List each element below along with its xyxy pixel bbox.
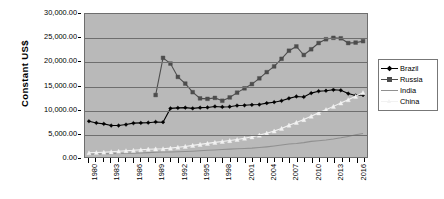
data-point-marker <box>161 120 165 124</box>
legend-item-china[interactable]: China <box>381 96 435 107</box>
x-axis-tick-label: 2013 <box>337 164 344 180</box>
series-china <box>87 91 365 155</box>
series-russia <box>154 36 365 103</box>
data-point-marker <box>309 114 313 118</box>
x-axis-tick-label: 2007 <box>292 164 299 180</box>
x-axis-tick-mark <box>289 158 290 163</box>
x-axis-tick-mark <box>319 158 320 162</box>
series-line <box>156 38 363 101</box>
x-axis-tick-mark <box>103 158 104 162</box>
x-axis-tick-mark <box>207 158 208 162</box>
data-point-marker <box>94 121 98 125</box>
series-line <box>89 90 363 126</box>
x-axis-tick-mark <box>110 158 111 163</box>
data-point-marker <box>346 92 350 96</box>
x-axis-tick-mark <box>95 158 96 162</box>
data-point-marker <box>220 99 224 103</box>
x-axis-tick-labels: 1980198319861989199219951998200120042007… <box>84 164 368 198</box>
data-point-marker <box>183 82 187 86</box>
data-point-marker <box>117 124 121 128</box>
data-point-marker <box>309 91 313 95</box>
data-point-marker <box>346 41 350 45</box>
y-axis-tick-mark <box>78 110 81 111</box>
data-point-marker <box>309 47 313 51</box>
data-point-marker <box>161 56 165 60</box>
x-axis-tick-mark <box>364 158 365 162</box>
data-point-marker <box>257 76 261 80</box>
legend-label: Russia <box>400 76 423 83</box>
x-axis-tick-mark <box>237 158 238 162</box>
data-point-marker <box>324 89 328 93</box>
legend-label: China <box>400 98 419 105</box>
data-point-marker <box>176 75 180 79</box>
y-axis-tick-mark <box>78 86 81 87</box>
data-point-marker <box>139 121 143 125</box>
gridline <box>85 62 367 63</box>
x-axis-tick-mark <box>312 158 313 163</box>
x-axis-tick-mark <box>267 158 268 163</box>
data-point-marker <box>339 88 343 92</box>
y-axis-tick-label: 25,000.00 <box>44 33 77 40</box>
x-axis-tick-label: 1983 <box>113 164 120 180</box>
x-axis-tick-label: 1989 <box>158 164 165 180</box>
series-line <box>89 93 363 153</box>
legend-item-brazil[interactable]: Brazil <box>381 63 435 74</box>
x-axis-tick-mark <box>349 158 350 162</box>
data-point-marker <box>272 65 276 69</box>
data-point-marker <box>250 82 254 86</box>
legend-swatch-russia <box>381 75 398 84</box>
x-axis-tick-label: 1995 <box>203 164 210 180</box>
x-axis-tick-label: 2001 <box>248 164 255 180</box>
x-axis-tick-mark <box>170 158 171 162</box>
y-axis-tick-mark <box>78 37 81 38</box>
x-axis-tick-mark <box>282 158 283 162</box>
x-axis-tick-mark <box>245 158 246 163</box>
x-axis-tick-label: 2010 <box>315 164 322 180</box>
data-point-marker <box>302 95 306 99</box>
data-point-marker <box>235 104 239 108</box>
x-axis-tick-mark <box>200 158 201 163</box>
legend-item-russia[interactable]: Russia <box>381 74 435 85</box>
data-point-marker <box>272 100 276 104</box>
legend-item-india[interactable]: India <box>381 85 435 96</box>
x-axis-tick-mark <box>118 158 119 162</box>
data-point-marker <box>176 106 180 110</box>
x-axis-tick-mark <box>260 158 261 162</box>
x-axis-tick-mark <box>304 158 305 162</box>
data-point-marker <box>294 95 298 99</box>
data-point-marker <box>294 45 298 49</box>
data-point-marker <box>243 103 247 107</box>
y-axis-tick-label: 5,000.00 <box>48 130 77 137</box>
data-point-marker <box>198 96 202 100</box>
data-point-marker <box>354 41 358 45</box>
legend-swatch-brazil <box>381 64 398 73</box>
gridline <box>85 38 367 39</box>
data-point-marker <box>213 96 217 100</box>
x-axis-tick-mark <box>357 158 358 163</box>
y-axis-tick-mark <box>78 61 81 62</box>
y-axis-tick-mark <box>78 134 81 135</box>
legend-swatch-china <box>381 97 398 106</box>
data-point-marker <box>257 103 261 107</box>
gridline <box>85 111 367 112</box>
x-axis-tick-label: 2016 <box>360 164 367 180</box>
x-axis-tick-mark <box>155 158 156 163</box>
data-point-marker <box>154 93 158 97</box>
legend-marker <box>387 77 392 82</box>
chart-legend: BrazilRussiaIndiaChina <box>378 59 438 111</box>
data-point-marker <box>220 105 224 109</box>
y-axis-tick-mark <box>78 13 81 14</box>
data-point-marker <box>228 105 232 109</box>
data-point-marker <box>331 104 335 108</box>
data-point-marker <box>132 121 136 125</box>
legend-label: India <box>400 87 416 94</box>
data-point-marker <box>191 90 195 94</box>
data-point-marker <box>339 101 343 105</box>
x-axis-tick-mark <box>222 158 223 163</box>
data-point-marker <box>280 57 284 61</box>
data-point-marker <box>250 103 254 107</box>
data-point-marker <box>287 49 291 53</box>
data-point-marker <box>124 123 128 127</box>
data-point-marker <box>287 96 291 100</box>
data-point-marker <box>332 88 336 92</box>
